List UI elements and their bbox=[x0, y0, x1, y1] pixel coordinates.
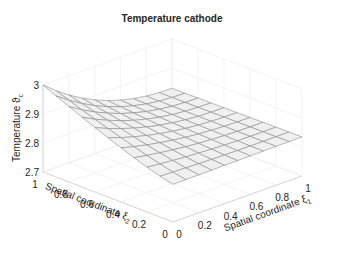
tick-label: 1 bbox=[32, 179, 38, 190]
surface-plot: 00.20.40.60.8100.20.40.60.812.72.82.93 T… bbox=[0, 0, 341, 257]
tick-label: 2.9 bbox=[25, 109, 39, 120]
tick-label: 2.7 bbox=[25, 167, 39, 178]
tick-label: 1 bbox=[305, 183, 311, 194]
svg-text:Temperature ϑc: Temperature ϑc bbox=[11, 94, 24, 162]
tick-label: 0 bbox=[162, 229, 168, 240]
tick-label: 3 bbox=[33, 80, 39, 91]
y-axis-label: Spatial coordinate ξ2 bbox=[43, 180, 133, 225]
z-axis-label: Temperature ϑc bbox=[11, 94, 24, 162]
surface-face bbox=[43, 85, 69, 100]
tick-label: 0 bbox=[176, 229, 182, 240]
tick-label: 0.2 bbox=[198, 220, 212, 231]
svg-text:Spatial coordinate ξ2: Spatial coordinate ξ2 bbox=[43, 180, 133, 225]
temperature-surface bbox=[43, 85, 302, 184]
tick-label: 2.8 bbox=[25, 138, 39, 149]
chart-title: Temperature cathode bbox=[122, 13, 223, 24]
tick-label: 0.2 bbox=[132, 219, 146, 230]
